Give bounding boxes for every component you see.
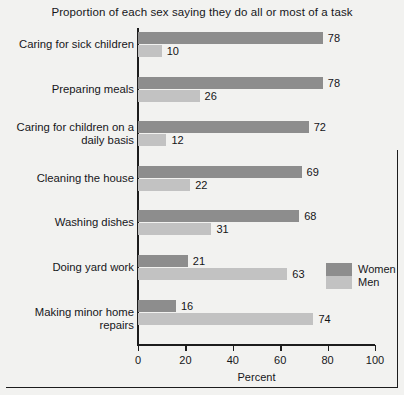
category-label-line: Caring for children on a (6, 121, 134, 134)
bar-women (138, 300, 176, 312)
plot-area: 7810782672126922683121631674 02040608010… (138, 28, 375, 344)
x-tick (185, 345, 186, 351)
bar-women (138, 166, 302, 178)
bar-men (138, 313, 313, 325)
bar-value-men: 74 (318, 313, 330, 325)
bar-group: 7826 (138, 77, 375, 105)
x-tick-label: 80 (321, 354, 333, 366)
x-tick (328, 345, 329, 351)
legend-swatch-women (326, 263, 352, 276)
bar-value-women: 21 (193, 255, 205, 267)
bar-value-women: 16 (181, 300, 193, 312)
category-label-line: Caring for sick children (6, 38, 134, 51)
bar-value-women: 68 (304, 210, 316, 222)
x-tick (375, 345, 376, 351)
bar-value-men: 22 (195, 179, 207, 191)
bar-value-men: 10 (167, 45, 179, 57)
x-tick (138, 345, 139, 351)
bar-group: 6922 (138, 166, 375, 194)
bar-men (138, 134, 166, 146)
x-tick (233, 345, 234, 351)
x-axis-line (137, 344, 375, 346)
bar-group: 7810 (138, 32, 375, 60)
bar-value-women: 72 (314, 121, 326, 133)
bar-value-men: 63 (292, 268, 304, 280)
x-axis-title: Percent (138, 371, 375, 383)
category-label: Cleaning the house (6, 172, 134, 185)
category-label: Caring for sick children (6, 38, 134, 51)
chart-title: Proportion of each sex saying they do al… (0, 6, 404, 18)
bar-women (138, 255, 188, 267)
bar-men (138, 223, 211, 235)
legend-label-women: Women (358, 262, 396, 276)
category-label-line: Doing yard work (6, 261, 134, 274)
bar-women (138, 32, 323, 44)
bar-men (138, 90, 200, 102)
bar-chart: Proportion of each sex saying they do al… (0, 0, 404, 395)
bar-value-men: 31 (216, 223, 228, 235)
category-label: Preparing meals (6, 83, 134, 96)
x-tick (280, 345, 281, 351)
frame-bottom-border (6, 387, 398, 388)
bar-value-women: 78 (328, 77, 340, 89)
x-tick-label: 0 (135, 354, 141, 366)
category-label-line: Making minor home repairs (6, 306, 134, 332)
legend-label-men: Men (358, 275, 379, 289)
bar-men (138, 179, 190, 191)
frame-right-border (397, 150, 398, 388)
bar-group: 7212 (138, 121, 375, 149)
bar-value-men: 26 (205, 90, 217, 102)
bar-men (138, 45, 162, 57)
category-label: Caring for children on adaily basis (6, 121, 134, 147)
bar-value-men: 12 (171, 134, 183, 146)
legend-swatch-men (326, 276, 352, 289)
x-tick-label: 100 (366, 354, 384, 366)
category-label: Making minor home repairs (6, 306, 134, 332)
category-label: Washing dishes (6, 216, 134, 229)
bar-value-women: 69 (307, 166, 319, 178)
bar-women (138, 210, 299, 222)
category-label-line: daily basis (6, 134, 134, 147)
category-label-line: Washing dishes (6, 216, 134, 229)
x-tick-label: 40 (227, 354, 239, 366)
category-label-line: Preparing meals (6, 83, 134, 96)
bar-men (138, 268, 287, 280)
category-label-line: Cleaning the house (6, 172, 134, 185)
bar-value-women: 78 (328, 32, 340, 44)
category-label: Doing yard work (6, 261, 134, 274)
x-tick-label: 60 (274, 354, 286, 366)
bar-women (138, 121, 309, 133)
bar-group: 1674 (138, 300, 375, 328)
bar-women (138, 77, 323, 89)
x-tick-label: 20 (179, 354, 191, 366)
bar-group: 6831 (138, 210, 375, 238)
